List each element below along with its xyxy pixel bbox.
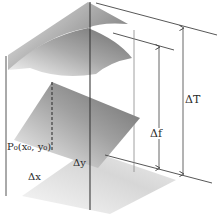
increment-diagram: ΔT Δf P₀(x₀, y₀) Δy Δx — [0, 0, 220, 221]
diagram-graphics — [0, 0, 220, 221]
delta-x-label: Δx — [28, 172, 41, 182]
point-p0-label: P₀(x₀, y₀) — [7, 142, 51, 152]
delta-y-label: Δy — [73, 158, 86, 168]
delta-T-label: ΔT — [185, 94, 200, 105]
delta-f-label: Δf — [150, 128, 162, 139]
middle-plane — [14, 82, 140, 168]
tangent-line — [113, 33, 174, 50]
